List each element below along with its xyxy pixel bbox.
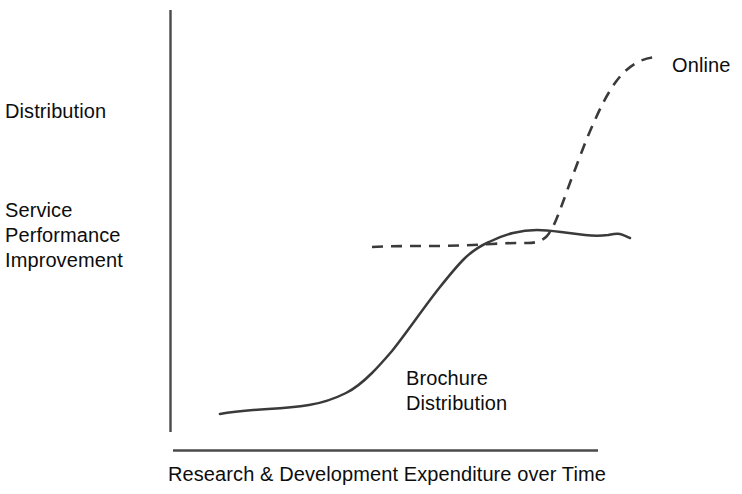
y-axis-label-line-2: Performance xyxy=(5,224,121,246)
y-axis-label-line-3: Improvement xyxy=(5,249,123,271)
y-axis-category-label-service-performance-improvement: ServicePerformanceImprovement xyxy=(5,198,123,273)
series-label-brochure-line-1: Brochure xyxy=(406,367,488,389)
x-axis-title: Research & Development Expenditure over … xyxy=(168,462,606,487)
y-axis-category-label-distribution: Distribution xyxy=(5,99,106,124)
series-label-brochure-distribution: BrochureDistribution xyxy=(406,366,507,416)
series-label-online: Online xyxy=(672,53,730,78)
series-label-brochure-line-2: Distribution xyxy=(406,392,507,414)
y-axis-label-line-1: Service xyxy=(5,199,72,221)
series-curve-online xyxy=(372,57,660,247)
chart-container: Distribution ServicePerformanceImproveme… xyxy=(0,0,742,494)
